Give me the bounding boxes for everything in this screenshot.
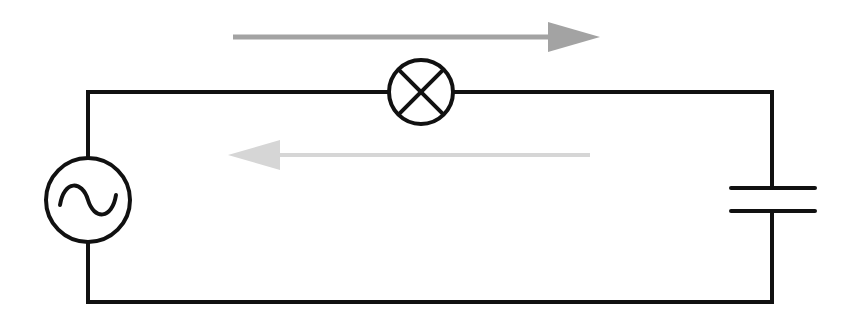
circuit-diagram: [0, 0, 852, 332]
wire-top-right: [453, 92, 772, 188]
wire-top-left: [88, 92, 389, 158]
wire-bottom: [88, 211, 772, 302]
current-arrow-right-icon: [233, 22, 600, 52]
capacitor-icon: [731, 188, 815, 211]
ac-source-icon: [46, 158, 130, 242]
current-arrow-left-icon: [228, 140, 590, 170]
lamp-icon: [389, 60, 453, 124]
